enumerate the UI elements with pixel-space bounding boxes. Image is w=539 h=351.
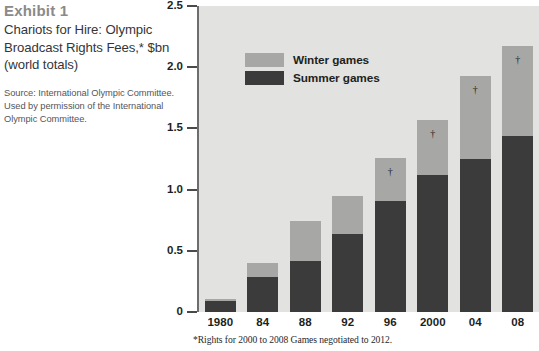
x-axis-label-92: 92 — [327, 315, 370, 329]
bar-segment-winter — [332, 196, 363, 234]
exhibit-label: Exhibit 1 — [4, 2, 182, 19]
dagger-annotation: † — [417, 128, 448, 139]
page-title: Chariots for Hire: Olympic Broadcast Rig… — [4, 21, 182, 74]
y-axis-tick-label: 0.5 — [167, 243, 183, 257]
x-axis-label-96: 96 — [369, 315, 412, 329]
y-axis-tick-mark — [187, 189, 197, 191]
y-axis-tick-mark — [187, 127, 197, 129]
y-axis-tick-label: 1.0 — [167, 182, 183, 196]
y-axis-tick-mark — [187, 250, 197, 252]
dagger-annotation: † — [502, 54, 533, 65]
y-axis-tick-mark — [187, 66, 197, 68]
bar-segment-winter — [247, 263, 278, 276]
y-axis-tick-label: 2.0 — [167, 59, 183, 73]
legend-swatch-summer — [245, 71, 284, 85]
x-axis-label-88: 88 — [284, 315, 327, 329]
bar-segment-summer — [290, 261, 321, 312]
bar-segment-winter — [290, 221, 321, 260]
source-note: Source: International Olympic Committee.… — [4, 87, 182, 127]
x-axis-label-08: 08 — [497, 315, 539, 329]
bar-84[interactable] — [247, 263, 278, 312]
legend-swatch-winter — [245, 53, 284, 67]
dagger-annotation: † — [375, 166, 406, 177]
y-axis-line — [197, 6, 199, 312]
bar-segment-summer — [460, 159, 491, 312]
legend-item-winter: Winter games — [245, 52, 380, 67]
y-axis-tick-label: 1.5 — [167, 120, 183, 134]
bar-2000[interactable]: † — [417, 120, 448, 312]
bar-88[interactable] — [290, 221, 321, 312]
bar-segment-summer — [375, 201, 406, 312]
bar-92[interactable] — [332, 196, 363, 312]
legend-label-winter: Winter games — [293, 53, 369, 67]
bar-segment-summer — [332, 234, 363, 312]
bar-segment-summer — [502, 136, 533, 312]
bar-08[interactable]: † — [502, 46, 533, 312]
bar-04[interactable]: † — [460, 76, 491, 312]
x-axis-label-2000: 2000 — [412, 315, 455, 329]
x-axis-label-04: 04 — [454, 315, 497, 329]
caption-block: Exhibit 1 Chariots for Hire: Olympic Bro… — [4, 2, 182, 126]
legend-label-summer: Summer games — [293, 71, 380, 85]
y-axis-tick-mark — [187, 311, 197, 313]
footnote: *Rights for 2000 to 2008 Games negotiate… — [193, 334, 392, 345]
bar-96[interactable]: † — [375, 158, 406, 312]
dagger-annotation: † — [460, 84, 491, 95]
bar-segment-winter — [375, 158, 406, 201]
legend-item-summer: Summer games — [245, 70, 380, 85]
y-axis-tick-mark — [187, 5, 197, 7]
legend: Winter games Summer games — [245, 52, 380, 88]
x-axis-label-84: 84 — [242, 315, 285, 329]
bar-segment-summer — [205, 301, 236, 312]
y-axis-tick-label: 0 — [177, 304, 183, 318]
y-axis-tick-label: 2.5 — [167, 0, 183, 12]
x-axis-label-1980: 1980 — [199, 315, 242, 329]
bar-1980[interactable] — [205, 299, 236, 312]
bar-segment-summer — [417, 175, 448, 312]
bar-segment-summer — [247, 277, 278, 312]
